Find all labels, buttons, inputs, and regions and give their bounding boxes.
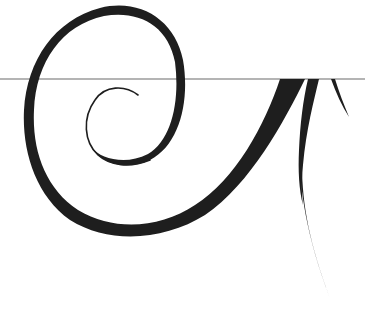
inner-spiral-stroke	[86, 88, 150, 165]
swirl-artwork	[0, 0, 365, 332]
tapering-tail-stroke	[299, 150, 330, 298]
outer-spiral-stroke	[24, 6, 305, 237]
short-thorn-stroke	[331, 79, 349, 117]
